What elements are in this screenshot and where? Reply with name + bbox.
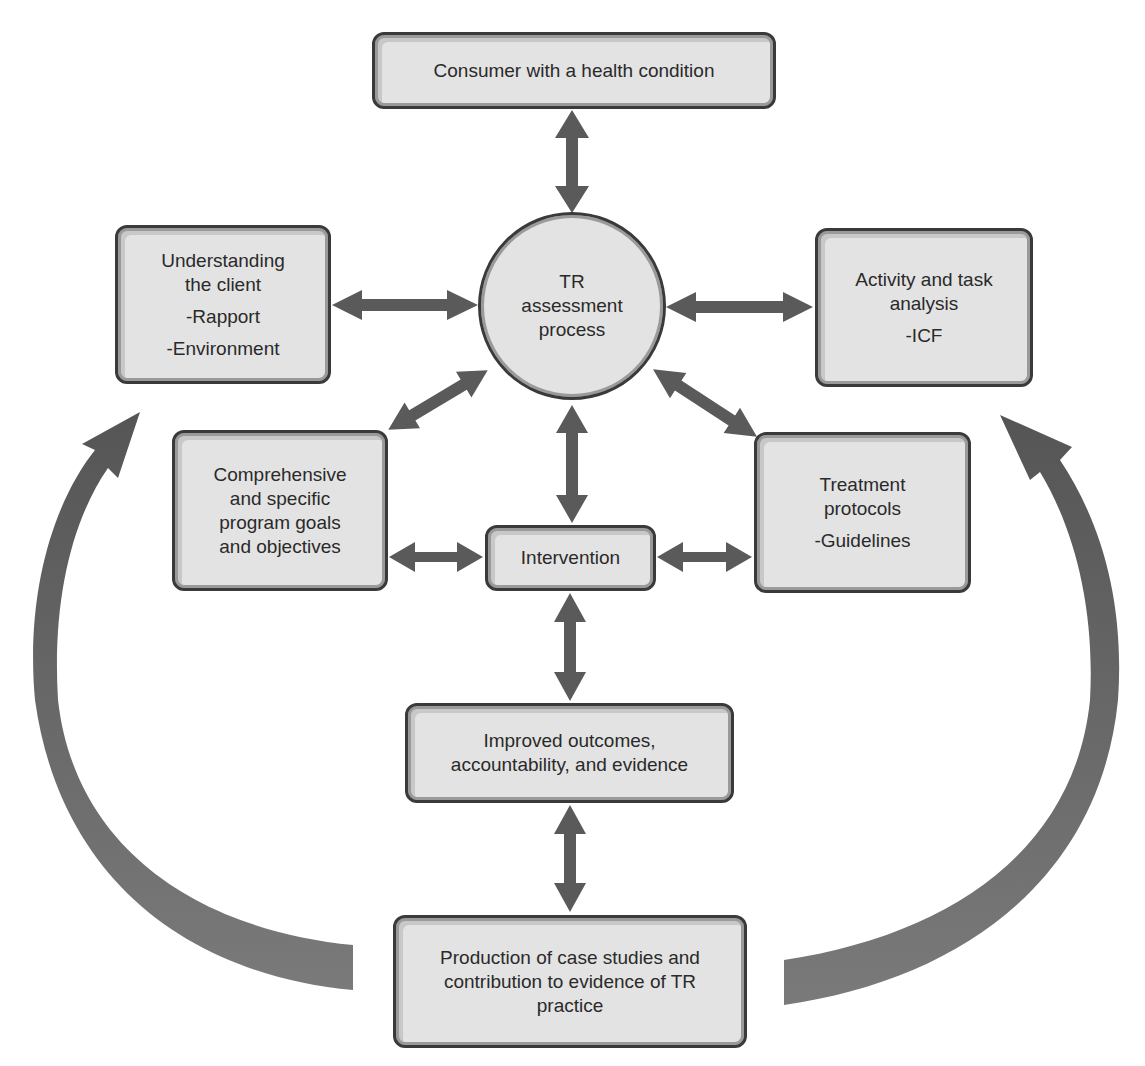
center-label-line-2: assessment <box>521 294 622 318</box>
comprehensive-label-line-2: and specific <box>230 487 330 511</box>
node-activity-task-analysis: Activity and task analysis -ICF <box>815 228 1033 387</box>
comprehensive-label-line-1: Comprehensive <box>213 463 346 487</box>
node-consumer: Consumer with a health condition <box>372 32 776 109</box>
node-treatment-protocols: Treatment protocols -Guidelines <box>754 432 971 593</box>
understanding-sub-rapport: -Rapport <box>186 305 260 329</box>
understanding-sub-environment: -Environment <box>167 337 280 361</box>
production-label-line-2: contribution to evidence of TR <box>444 970 696 994</box>
double-arrow-comprehensive-center-icon <box>381 357 496 442</box>
understanding-label-line-1: Understanding <box>161 249 285 273</box>
production-label-line-3: practice <box>537 994 604 1018</box>
double-arrow-comprehensive-intervention-icon <box>389 542 483 572</box>
double-arrow-consumer-center-icon <box>555 110 589 213</box>
node-intervention: Intervention <box>485 525 656 591</box>
double-arrow-intervention-treatment-icon <box>657 542 752 572</box>
intervention-label: Intervention <box>521 546 620 570</box>
activity-label-line-2: analysis <box>890 292 959 316</box>
node-comprehensive-goals: Comprehensive and specific program goals… <box>172 430 388 591</box>
node-consumer-label: Consumer with a health condition <box>434 59 715 83</box>
improved-label-line-1: Improved outcomes, <box>483 729 655 753</box>
node-improved-outcomes: Improved outcomes, accountability, and e… <box>405 703 734 803</box>
node-understanding-client: Understanding the client -Rapport -Envir… <box>115 225 331 384</box>
activity-sub-icf: -ICF <box>906 324 943 348</box>
double-arrow-intervention-improved-icon <box>554 593 586 701</box>
node-tr-assessment-process: TR assessment process <box>478 212 666 400</box>
activity-label-line-1: Activity and task <box>855 268 992 292</box>
comprehensive-label-line-4: and objectives <box>219 535 340 559</box>
node-production-case-studies: Production of case studies and contribut… <box>393 915 747 1048</box>
center-label-line-3: process <box>539 318 606 342</box>
production-label-line-1: Production of case studies and <box>440 946 700 970</box>
double-arrow-center-activity-icon <box>666 292 813 322</box>
double-arrow-improved-production-icon <box>554 805 586 912</box>
center-label-line-1: TR <box>559 270 584 294</box>
comprehensive-label-line-3: program goals <box>219 511 340 535</box>
improved-label-line-2: accountability, and evidence <box>451 753 688 777</box>
double-arrow-center-intervention-icon <box>556 405 588 523</box>
double-arrow-center-treatment-icon <box>645 357 765 450</box>
understanding-label-line-2: the client <box>185 273 261 297</box>
treatment-sub-guidelines: -Guidelines <box>814 529 910 553</box>
treatment-label-line-2: protocols <box>824 497 901 521</box>
treatment-label-line-1: Treatment <box>820 473 906 497</box>
double-arrow-understanding-center-icon <box>332 290 478 320</box>
